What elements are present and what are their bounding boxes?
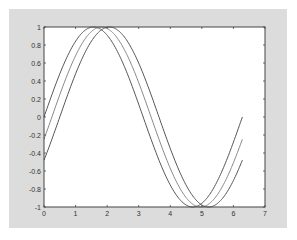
- y-tick-label: -0.2: [29, 132, 41, 139]
- x-tick-label: 0: [42, 210, 46, 217]
- x-tick-label: 3: [137, 210, 141, 217]
- plot-area: [44, 27, 265, 207]
- x-tick-label: 4: [168, 210, 172, 217]
- y-tick-label: 0.6: [31, 60, 41, 67]
- y-tick-label: -0.6: [29, 168, 41, 175]
- y-tick-label: 0: [37, 114, 41, 121]
- x-tick-label: 5: [200, 210, 204, 217]
- y-tick-label: 1: [37, 24, 41, 31]
- x-tick-label: 2: [105, 210, 109, 217]
- y-tick-label: -0.4: [29, 150, 41, 157]
- x-tick-label: 7: [263, 210, 267, 217]
- y-tick-label: 0.4: [31, 78, 41, 85]
- line-chart: 01234567-1-0.8-0.6-0.4-0.200.20.40.60.81: [0, 0, 297, 240]
- y-tick-label: 0.2: [31, 96, 41, 103]
- y-tick-label: 0.8: [31, 42, 41, 49]
- x-tick-label: 1: [74, 210, 78, 217]
- y-tick-label: -1: [35, 204, 41, 211]
- y-tick-label: -0.8: [29, 186, 41, 193]
- x-tick-label: 6: [231, 210, 235, 217]
